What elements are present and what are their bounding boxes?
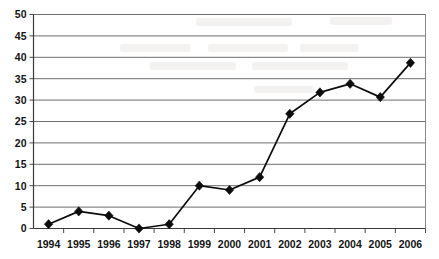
y-axis-tick-label: 30 bbox=[15, 94, 27, 106]
data-point-marker bbox=[105, 211, 113, 220]
data-point-marker bbox=[286, 109, 294, 118]
x-axis-tick-label: 1998 bbox=[158, 238, 182, 250]
y-axis-tick-labels: 05101520253035404550 bbox=[15, 8, 27, 234]
x-axis-tick-label: 2002 bbox=[278, 238, 302, 250]
data-point-marker bbox=[135, 224, 143, 233]
chart-svg: 05101520253035404550 1994199519961997199… bbox=[0, 0, 439, 259]
gridlines bbox=[34, 15, 426, 208]
line-chart-figure: 05101520253035404550 1994199519961997199… bbox=[0, 0, 439, 259]
y-axis-tick-label: 0 bbox=[21, 222, 27, 234]
data-point-marker bbox=[346, 79, 354, 88]
x-axis-tick-label: 2006 bbox=[399, 238, 423, 250]
data-point-marker bbox=[44, 220, 52, 229]
data-point-marker bbox=[316, 88, 324, 97]
x-axis-ticks bbox=[64, 229, 426, 234]
x-axis-tick-label: 2000 bbox=[218, 238, 242, 250]
y-axis-tick-label: 50 bbox=[15, 8, 27, 20]
x-axis-tick-label: 2004 bbox=[338, 238, 362, 250]
x-axis-tick-label: 2003 bbox=[308, 238, 332, 250]
x-axis-tick-label: 2001 bbox=[248, 238, 272, 250]
x-axis-tick-label: 1999 bbox=[188, 238, 212, 250]
y-axis-tick-label: 5 bbox=[21, 201, 27, 213]
y-axis-tick-label: 15 bbox=[15, 158, 27, 170]
y-axis-tick-label: 20 bbox=[15, 137, 27, 149]
data-point-marker bbox=[225, 185, 233, 194]
x-axis-tick-label: 1996 bbox=[97, 238, 121, 250]
x-axis-tick-label: 1994 bbox=[37, 238, 61, 250]
data-point-marker bbox=[255, 173, 263, 182]
data-point-marker bbox=[75, 207, 83, 216]
data-series-line bbox=[49, 63, 411, 229]
x-axis-tick-labels: 1994199519961997199819992000200120022003… bbox=[37, 238, 422, 250]
y-axis-tick-label: 40 bbox=[15, 51, 27, 63]
x-axis-tick-label: 2005 bbox=[369, 238, 393, 250]
x-axis-tick-label: 1997 bbox=[127, 238, 151, 250]
y-axis-tick-label: 45 bbox=[15, 30, 27, 42]
y-axis-tick-label: 10 bbox=[15, 180, 27, 192]
x-axis-tick-label: 1995 bbox=[67, 238, 91, 250]
y-axis-tick-label: 35 bbox=[15, 73, 27, 85]
y-axis-tick-label: 25 bbox=[15, 115, 27, 127]
